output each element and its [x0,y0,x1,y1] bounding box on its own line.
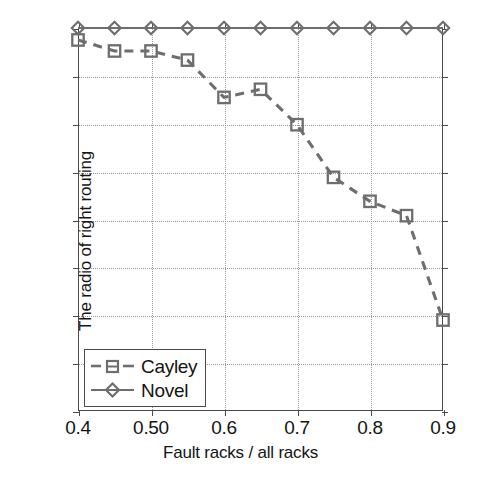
chart-figure: 0.20.30.40.50.60.70.80.91 0.40.500.60.70… [0,0,481,481]
x-axis-tick-mark [444,410,445,416]
legend-label-cayley: Cayley [141,357,197,376]
x-axis-tick-label: 0.9 [430,417,456,439]
x-axis-tick-label: 0.50 [133,417,169,439]
legend-marker-diamond-solid-icon [90,380,136,400]
x-axis-tick-label: 0.8 [357,417,383,439]
legend-item-cayley[interactable]: Cayley [90,354,197,378]
legend-label-novel: Novel [141,381,188,400]
y-axis-title: The radio of right routing [76,150,96,330]
legend-marker-square-dashed-icon [90,356,136,376]
x-axis-tick-label: 0.4 [65,417,91,439]
x-axis-title: Fault racks / all racks [0,443,481,463]
x-axis-tick-label: 0.7 [284,417,310,439]
series-line [78,40,443,320]
y-axis-tick-mark [442,412,448,413]
chart-legend: Cayley Novel [84,349,206,407]
x-axis-tick-label: 0.6 [211,417,237,439]
series-cayley [72,34,448,325]
series-novel [72,22,449,34]
legend-item-novel[interactable]: Novel [90,378,197,402]
